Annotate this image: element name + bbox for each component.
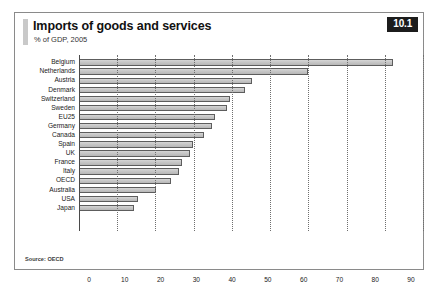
x-tick-label: 10 — [121, 276, 128, 283]
bar-cell — [79, 176, 411, 185]
bar — [79, 78, 252, 84]
category-label: Belgium — [25, 59, 79, 66]
bar-row: Canada — [25, 131, 411, 140]
bar-cell — [79, 58, 411, 67]
bar-cell — [79, 194, 411, 203]
plot-wrapper: BelgiumNetherlandsAustriaDenmarkSwitzerl… — [15, 55, 423, 269]
bar-cell — [79, 94, 411, 103]
bar — [79, 159, 182, 165]
bar — [79, 187, 156, 193]
bar-cell — [79, 85, 411, 94]
bar-cell — [79, 67, 411, 76]
bar-cell — [79, 140, 411, 149]
x-tick-label: 30 — [193, 276, 200, 283]
x-tick-label: 80 — [372, 276, 379, 283]
bar-row: Denmark — [25, 85, 411, 94]
bar-cell — [79, 113, 411, 122]
bar-row: Netherlands — [25, 67, 411, 76]
bar — [79, 123, 212, 129]
x-tick-label: 50 — [264, 276, 271, 283]
gridline — [423, 55, 424, 231]
bar — [79, 59, 393, 65]
category-label: Sweden — [25, 105, 79, 112]
bar-row: Japan — [25, 204, 411, 213]
category-label: Denmark — [25, 87, 79, 94]
category-label: EU25 — [25, 114, 79, 121]
bar-cell — [79, 185, 411, 194]
x-tick-label: 70 — [336, 276, 343, 283]
x-tick-label: 60 — [300, 276, 307, 283]
category-label: Japan — [25, 205, 79, 212]
bar — [79, 150, 190, 156]
bar-cell — [79, 122, 411, 131]
bar-row: Austria — [25, 76, 411, 85]
category-label: Canada — [25, 132, 79, 139]
bar — [79, 132, 204, 138]
title-accent-bar — [23, 19, 28, 45]
bar — [79, 114, 215, 120]
bar-row: OECD — [25, 176, 411, 185]
x-tick-label: 20 — [157, 276, 164, 283]
bar-cell — [79, 103, 411, 112]
chart-number-badge: 10.1 — [387, 17, 418, 32]
category-label: Germany — [25, 123, 79, 130]
category-label: UK — [25, 150, 79, 157]
bar — [79, 196, 138, 202]
figure-frame: Imports of goods and services % of GDP, … — [14, 12, 424, 270]
category-label: Netherlands — [25, 68, 79, 75]
bar-cell — [79, 158, 411, 167]
x-tick-label: 0 — [87, 276, 91, 283]
bar-cell — [79, 167, 411, 176]
bar — [79, 87, 245, 93]
bar — [79, 178, 171, 184]
bar-row: Sweden — [25, 103, 411, 112]
bar-row: Germany — [25, 122, 411, 131]
category-label: USA — [25, 196, 79, 203]
bar-cell — [79, 204, 411, 213]
chart-subtitle: % of GDP, 2005 — [34, 35, 87, 44]
bar-cell — [79, 76, 411, 85]
page-title: Imports of goods and services — [33, 19, 211, 33]
bar-row: Australia — [25, 185, 411, 194]
bar — [79, 205, 134, 211]
category-label: Switzerland — [25, 96, 79, 103]
bar-chart: BelgiumNetherlandsAustriaDenmarkSwitzerl… — [25, 58, 411, 234]
bar-row: Switzerland — [25, 94, 411, 103]
bar-row: France — [25, 158, 411, 167]
category-label: OECD — [25, 177, 79, 184]
bar — [79, 105, 227, 111]
x-tick-label: 40 — [228, 276, 235, 283]
category-label: Australia — [25, 187, 79, 194]
bar-cell — [79, 131, 411, 140]
bar-cell — [79, 149, 411, 158]
bar-row: UK — [25, 149, 411, 158]
x-axis: 0102030405060708090 — [89, 276, 411, 287]
bar — [79, 96, 230, 102]
bar-row: USA — [25, 194, 411, 203]
category-label: Spain — [25, 141, 79, 148]
category-label: Italy — [25, 168, 79, 175]
bar — [79, 168, 179, 174]
bar-row: EU25 — [25, 113, 411, 122]
bar — [79, 141, 193, 147]
bar-row: Belgium — [25, 58, 411, 67]
bar-row: Italy — [25, 167, 411, 176]
source-note: Source: OECD — [25, 256, 64, 262]
x-tick-label: 90 — [407, 276, 414, 283]
category-label: France — [25, 159, 79, 166]
bar-row: Spain — [25, 140, 411, 149]
bar — [79, 68, 308, 74]
figure-header: Imports of goods and services % of GDP, … — [15, 13, 423, 55]
category-label: Austria — [25, 77, 79, 84]
